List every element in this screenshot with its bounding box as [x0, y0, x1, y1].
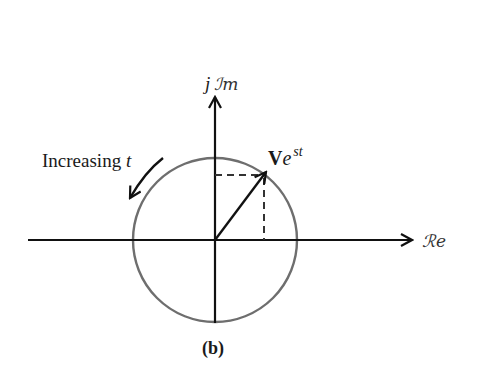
figure-caption: (b) [202, 338, 224, 359]
phasor-arrow [215, 172, 266, 240]
phasor-label: Vest [268, 144, 304, 169]
rotation-arrow [130, 158, 163, 198]
real-axis-label: ℛe [422, 231, 446, 251]
phasor-diagram: jℐm ℛe Vest Increasing t (b) [0, 0, 477, 377]
rotation-label: Increasing t [42, 150, 132, 171]
imaginary-axis-label: jℐm [202, 73, 238, 94]
